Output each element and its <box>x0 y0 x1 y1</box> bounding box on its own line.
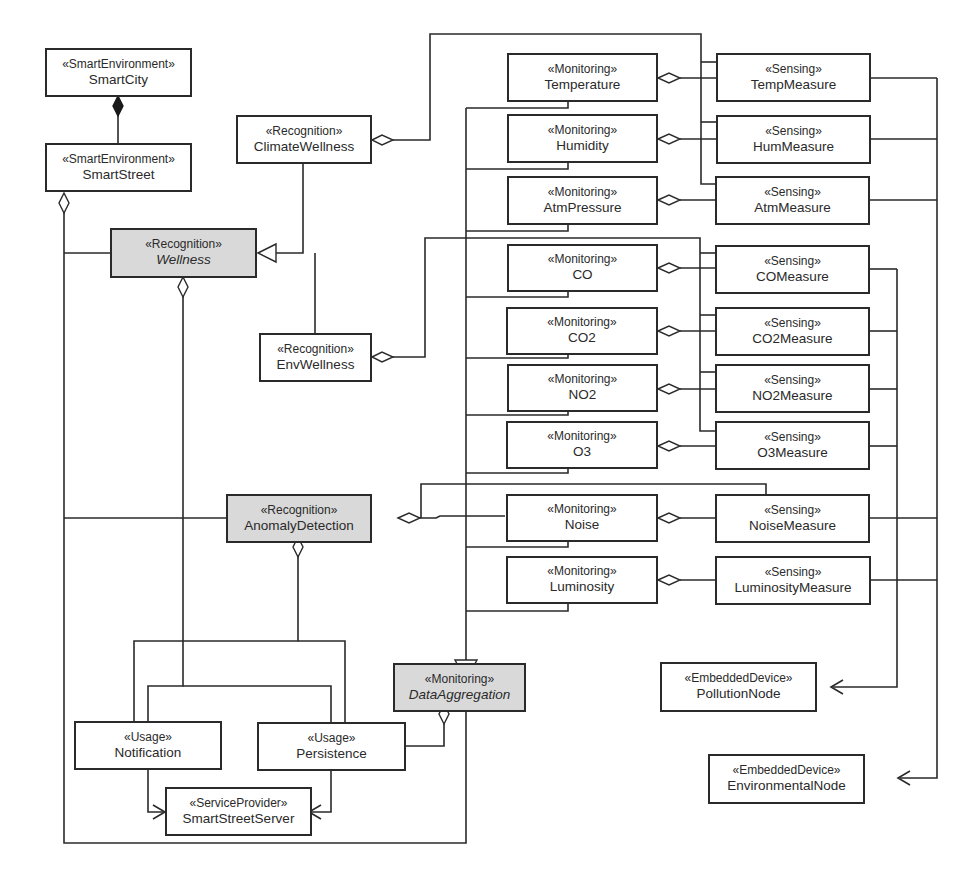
gen-branch-atmpressure <box>466 225 568 231</box>
class-name: NO2Measure <box>752 388 832 405</box>
stereotype-label: «Recognition» <box>277 342 354 357</box>
class-atmpressure[interactable]: «Monitoring» AtmPressure <box>507 176 658 225</box>
aggregation-diamond-noise <box>658 513 680 523</box>
aggregation-wellness-notification <box>148 296 183 722</box>
class-name: EnvironmentalNode <box>727 778 846 795</box>
class-pollutionnode[interactable]: «EmbeddedDevice» PollutionNode <box>660 662 817 712</box>
stereotype-label: «SmartEnvironment» <box>62 57 175 72</box>
aggregation-diamond-no2 <box>658 384 680 394</box>
aggregation-anomaly-branch <box>134 555 298 722</box>
class-name: O3Measure <box>757 445 828 462</box>
stereotype-label: «Sensing» <box>764 373 821 388</box>
class-smartstreet[interactable]: «SmartEnvironment» SmartStreet <box>45 143 192 192</box>
class-wellness[interactable]: «Recognition» Wellness <box>110 228 257 278</box>
class-name: SmartStreet <box>82 167 154 184</box>
stereotype-label: «Recognition» <box>266 124 343 139</box>
class-anomalydetection[interactable]: «Recognition» AnomalyDetection <box>226 494 372 543</box>
class-comeasure[interactable]: «Sensing» COMeasure <box>715 245 870 294</box>
class-name: Temperature <box>545 77 621 94</box>
class-name: Noise <box>565 517 600 534</box>
aggregation-diamond-anomaly-right <box>398 513 420 523</box>
class-climatewellness[interactable]: «Recognition» ClimateWellness <box>236 115 372 164</box>
stereotype-label: «Monitoring» <box>547 564 616 579</box>
aggregation-diamond-co2 <box>658 326 680 336</box>
class-environmentalnode[interactable]: «EmbeddedDevice» EnvironmentalNode <box>708 754 865 804</box>
stereotype-label: «Recognition» <box>145 237 222 252</box>
class-no2measure[interactable]: «Sensing» NO2Measure <box>715 364 870 413</box>
class-luminositymeasure[interactable]: «Sensing» LuminosityMeasure <box>715 556 871 605</box>
stereotype-label: «Monitoring» <box>548 252 617 267</box>
class-dataaggregation[interactable]: «Monitoring» DataAggregation <box>393 663 526 712</box>
aggregation-diamond-smartstreet <box>59 193 69 213</box>
gen-branch-temperature <box>466 101 568 108</box>
class-name: TempMeasure <box>751 77 837 94</box>
stereotype-label: «Monitoring» <box>547 502 616 517</box>
class-name: AtmMeasure <box>754 200 831 217</box>
stereotype-label: «Sensing» <box>764 316 821 331</box>
stereotype-label: «Sensing» <box>764 503 821 518</box>
class-smartcity[interactable]: «SmartEnvironment» SmartCity <box>45 48 192 97</box>
aggregation-diamond-atmpressure <box>658 195 680 205</box>
class-name: CO2Measure <box>752 331 832 348</box>
class-name: EnvWellness <box>277 357 355 374</box>
class-persistence[interactable]: «Usage» Persistence <box>257 722 406 771</box>
class-name: AnomalyDetection <box>244 518 354 535</box>
class-name: Notification <box>115 745 182 762</box>
class-name: LuminosityMeasure <box>734 580 851 597</box>
aggregation-diamond-o3 <box>658 441 680 451</box>
gen-branch-humidity <box>466 162 568 169</box>
class-name: Persistence <box>296 746 367 763</box>
class-temperature[interactable]: «Monitoring» Temperature <box>507 53 658 102</box>
stereotype-label: «Sensing» <box>764 185 821 200</box>
stereotype-label: «Monitoring» <box>547 429 616 444</box>
class-no2[interactable]: «Monitoring» NO2 <box>507 364 658 412</box>
class-name: Wellness <box>156 252 211 269</box>
class-atmmeasure[interactable]: «Sensing» AtmMeasure <box>715 176 870 225</box>
class-envwellness[interactable]: «Recognition» EnvWellness <box>259 333 372 382</box>
generalization-head-wellness <box>258 244 276 262</box>
generalization-climate-wellness <box>276 164 303 253</box>
stereotype-label: «Usage» <box>307 731 355 746</box>
aggregation-anomaly-noise <box>416 516 505 518</box>
class-noisemeasure[interactable]: «Sensing» NoiseMeasure <box>715 494 870 543</box>
stereotype-label: «EmbeddedDevice» <box>684 671 792 686</box>
aggregation-diamond-temperature <box>658 73 680 83</box>
stereotype-label: «EmbeddedDevice» <box>732 763 840 778</box>
stereotype-label: «Sensing» <box>764 430 821 445</box>
stereotype-label: «Monitoring» <box>548 62 617 77</box>
stereotype-label: «Recognition» <box>261 503 338 518</box>
class-noise[interactable]: «Monitoring» Noise <box>506 494 658 542</box>
class-co[interactable]: «Monitoring» CO <box>507 244 658 292</box>
stereotype-label: «Sensing» <box>764 254 821 269</box>
class-co2measure[interactable]: «Sensing» CO2Measure <box>715 307 870 356</box>
stereotype-label: «Monitoring» <box>425 672 494 687</box>
class-name: Luminosity <box>550 579 615 596</box>
aggregation-anomaly-persistence <box>298 641 345 722</box>
aggregation-dataaggregation-persistence <box>405 724 444 746</box>
aggregation-diamond-co <box>658 263 680 273</box>
aggregation-diamond-climatewellness <box>372 135 393 145</box>
class-name: NoiseMeasure <box>749 518 836 535</box>
stereotype-label: «Sensing» <box>765 124 822 139</box>
stereotype-label: «Monitoring» <box>548 185 617 200</box>
stereotype-label: «Monitoring» <box>547 315 616 330</box>
class-tempmeasure[interactable]: «Sensing» TempMeasure <box>716 53 871 102</box>
class-co2[interactable]: «Monitoring» CO2 <box>506 307 658 355</box>
aggregation-diamond-envwellness <box>372 352 393 362</box>
class-humidity[interactable]: «Monitoring» Humidity <box>507 114 658 163</box>
class-o3measure[interactable]: «Sensing» O3Measure <box>715 421 870 470</box>
class-name: SmartStreetServer <box>183 811 295 828</box>
stereotype-label: «SmartEnvironment» <box>62 152 175 167</box>
class-notification[interactable]: «Usage» Notification <box>74 721 222 770</box>
class-smartstreetserver[interactable]: «ServiceProvider» SmartStreetServer <box>165 787 312 836</box>
class-hummeasure[interactable]: «Sensing» HumMeasure <box>716 115 871 164</box>
class-name: CO2 <box>568 330 596 347</box>
class-name: COMeasure <box>756 269 829 286</box>
class-o3[interactable]: «Monitoring» O3 <box>506 421 658 469</box>
class-name: CO <box>572 267 592 284</box>
class-name: AtmPressure <box>543 200 621 217</box>
class-luminosity[interactable]: «Monitoring» Luminosity <box>506 556 658 604</box>
stereotype-label: «ServiceProvider» <box>189 796 287 811</box>
class-name: SmartCity <box>89 72 148 89</box>
gen-branch-luminosity <box>466 604 568 611</box>
